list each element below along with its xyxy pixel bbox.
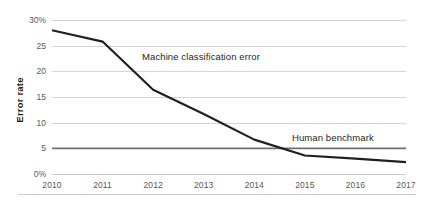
x-tick-label: 2011 [93,180,112,190]
machine-error-annotation: Machine classification error [142,51,260,62]
y-tick-label: 15 [6,92,46,102]
gridline-0 [52,174,406,175]
x-tick-label: 2014 [245,180,264,190]
x-tick-label: 2016 [346,180,365,190]
footer-divider [18,194,416,195]
x-tick-label: 2010 [42,180,61,190]
x-tick-label: 2015 [295,180,314,190]
x-tick-label: 2013 [194,180,213,190]
series-lines [52,20,406,174]
human-benchmark-annotation: Human benchmark [292,132,374,143]
y-tick-label: 30% [6,15,46,25]
x-tick-label: 2017 [396,180,415,190]
y-tick-label: 5 [6,143,46,153]
y-tick-label: 25 [6,41,46,51]
y-tick-label: 20 [6,66,46,76]
chart-figure: Error rate 30%2520151050% 20102011201220… [0,0,434,205]
x-tick-label: 2012 [143,180,162,190]
y-tick-label: 0% [6,169,46,179]
plot-area [52,20,406,174]
y-tick-label: 10 [6,118,46,128]
